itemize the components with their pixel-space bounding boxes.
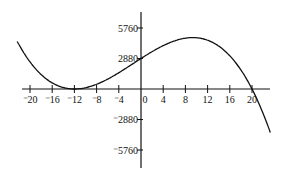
y-tick-label: ⁻5760 [113, 145, 138, 156]
x-tick-label: ⁻12 [67, 94, 82, 105]
x-tick-label: 12 [203, 94, 213, 105]
x-tick-label: ⁻16 [45, 94, 60, 105]
y-tick-label: 5760 [118, 23, 138, 34]
function-graph: ⁻20⁻16⁻12⁻8⁻404812162057602880⁻2880⁻5760 [0, 0, 284, 175]
axes [22, 12, 270, 168]
x-tick-label: 8 [183, 94, 188, 105]
x-tick-label: ⁻20 [23, 94, 38, 105]
x-tick-label: 0 [143, 94, 148, 105]
x-tick-label: ⁻4 [114, 94, 124, 105]
y-tick-label: ⁻2880 [113, 114, 138, 125]
chart-container: ⁻20⁻16⁻12⁻8⁻404812162057602880⁻2880⁻5760 [0, 0, 284, 175]
x-tick-label: ⁻8 [92, 94, 102, 105]
function-curve [17, 38, 270, 133]
x-tick-label: 4 [161, 94, 166, 105]
x-tick-label: 16 [225, 94, 235, 105]
